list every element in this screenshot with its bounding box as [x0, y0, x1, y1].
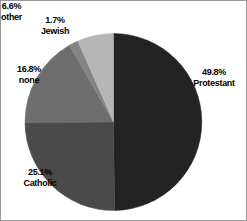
- pie-label-catholic-percent: 25.1%: [11, 167, 69, 178]
- pie-label-protestant-name: Protestant: [183, 78, 245, 89]
- pie-label-other-name: other: [1, 12, 22, 23]
- pie-label-protestant-percent: 49.8%: [183, 67, 245, 78]
- pie-label-protestant: 49.8% Protestant: [183, 67, 245, 89]
- pie-label-other: 6.6% other: [1, 1, 22, 23]
- pie-label-other-percent: 6.6%: [1, 1, 22, 12]
- pie-slice-protestant: [114, 34, 202, 211]
- pie-label-jewish: 1.7% Jewish: [33, 15, 77, 37]
- pie-label-catholic-name: Catholic: [11, 178, 69, 189]
- pie-label-jewish-percent: 1.7%: [33, 15, 77, 26]
- pie-label-none-percent: 16.8%: [3, 64, 55, 75]
- pie-label-catholic: 25.1% Catholic: [11, 167, 69, 189]
- pie-label-none: 16.8% none: [3, 64, 55, 86]
- pie-label-jewish-name: Jewish: [33, 26, 77, 37]
- pie-chart-figure: 49.8% Protestant 25.1% Catholic 16.8% no…: [0, 0, 247, 221]
- pie-label-none-name: none: [3, 75, 55, 86]
